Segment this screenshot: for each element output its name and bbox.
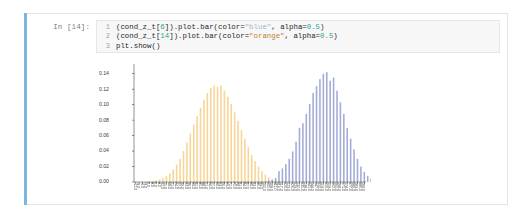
code-token: 14 [160,32,169,40]
y-tick-label: 0.10 [99,102,109,107]
code-token: (cond_z_t[ [116,23,160,31]
y-tick-label: 0.08 [99,118,109,123]
code-token: plt.show() [116,42,160,50]
cell-selection-indicator [24,13,27,205]
code-line[interactable]: 3plt.show() [97,42,499,52]
input-prompt-label: In [14]: [46,23,90,31]
code-token: , alpha= [271,23,306,31]
code-token: ) [320,23,324,31]
code-token: (cond_z_t[ [116,32,160,40]
y-tick-label: 0.12 [99,87,109,92]
bar-chart-canvas [111,60,371,202]
y-tick-label: 0.04 [99,148,109,153]
x-axis-tick-labels: -12.0-9.0-6.0-3.00.03.06.09.012.015.018.… [134,182,366,202]
line-number: 3 [97,42,110,52]
code-token: ]).plot.bar(color= [169,32,249,40]
code-line[interactable]: 1(cond_z_t[6]).plot.bar(color="blue", al… [97,23,499,33]
code-editor[interactable]: 1(cond_z_t[6]).plot.bar(color="blue", al… [96,20,500,53]
code-token: 0.5 [307,23,320,31]
y-tick-label: 0.06 [99,133,109,138]
line-number: 2 [97,32,110,42]
code-token: 0.5 [320,32,333,40]
y-tick-label: 0.14 [99,71,109,76]
code-token: , alpha= [285,32,320,40]
y-tick-label: 0.00 [99,179,109,184]
code-line[interactable]: 2(cond_z_t[14]).plot.bar(color="orange",… [97,32,499,42]
code-token: "orange" [249,32,284,40]
y-axis-tick-labels: 0.000.020.040.060.080.100.120.14 [89,60,109,202]
x-tick-label: 189.0 [361,182,365,191]
code-token: "blue" [245,23,272,31]
code-token: ]).plot.bar(color= [165,23,245,31]
code-token: ) [333,32,337,40]
y-tick-label: 0.02 [99,164,109,169]
line-number: 1 [97,23,110,33]
figure-output: 0.000.020.040.060.080.100.120.14 -12.0-9… [111,60,371,202]
